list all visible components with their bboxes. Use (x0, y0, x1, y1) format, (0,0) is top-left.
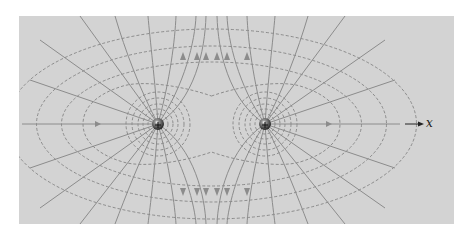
field-lines-diagram (19, 16, 454, 224)
x-axis-label: x (426, 116, 433, 130)
field-diagram-panel (19, 16, 454, 224)
positive-charge-right (259, 118, 271, 130)
positive-charge-left (152, 118, 164, 130)
x-axis-arrow (405, 122, 424, 127)
field-lines (22, 16, 400, 224)
